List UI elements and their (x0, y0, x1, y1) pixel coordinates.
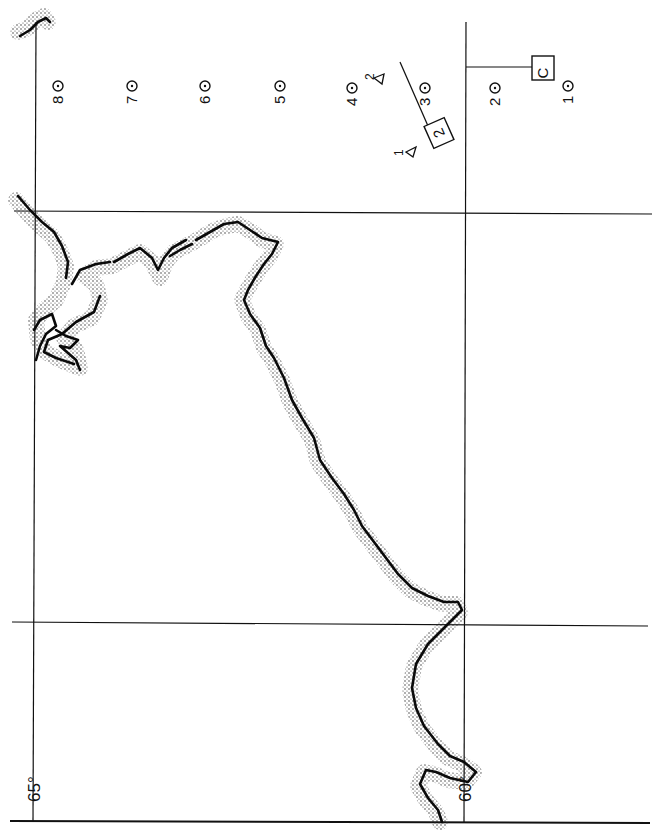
station-label: 8 (49, 96, 66, 104)
triangle-label: 2 (363, 73, 377, 80)
station-label: 2 (486, 98, 503, 106)
station-5[interactable]: 5 (271, 81, 288, 104)
station-4[interactable]: 4 (343, 83, 360, 106)
coastline (16, 16, 476, 822)
station-1[interactable]: 1 (559, 81, 576, 104)
leader-line (400, 62, 428, 126)
station-label: 5 (271, 96, 288, 104)
label-60-degrees: 60° (456, 776, 475, 802)
label-65-degrees: 65° (25, 776, 44, 802)
meridian-65-line (33, 22, 36, 822)
station-label: 7 (123, 96, 140, 104)
station-7[interactable]: 7 (123, 81, 140, 104)
station-6[interactable]: 6 (196, 81, 213, 104)
graticule (10, 22, 652, 823)
station-3[interactable]: 3 (416, 83, 433, 106)
meridian-60-line (464, 22, 466, 822)
station-label: 1 (559, 96, 576, 104)
box-marker-c[interactable]: C (466, 56, 554, 80)
station-label: 6 (196, 96, 213, 104)
triangle-label: 1 (392, 149, 406, 156)
triangle-marker-2[interactable]: 2 (363, 73, 384, 84)
station-label: 4 (343, 98, 360, 106)
stations: 8 7 6 5 4 3 2 (49, 81, 576, 106)
triangle-marker-1[interactable]: 1 (392, 147, 416, 157)
station-2[interactable]: 2 (486, 83, 503, 106)
map-frame-bottom (10, 821, 650, 823)
longitude-labels: 65° 60° (25, 776, 475, 802)
box-marker-label: C (534, 67, 551, 78)
map-canvas: 65° 60° 8 7 6 5 4 (0, 0, 657, 832)
parallel-line-upper (14, 211, 652, 214)
triangle-icon (406, 147, 416, 157)
parallel-line-lower (12, 622, 648, 626)
station-8[interactable]: 8 (49, 81, 66, 104)
